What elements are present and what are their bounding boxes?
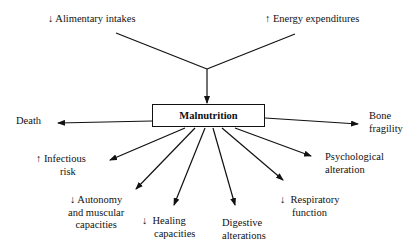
cause-energy-expenditures: ↑ Energy expenditures: [265, 13, 359, 26]
consequence-bone-fragility: Bone fragility: [369, 110, 403, 135]
consequence-digestive-alterations: Digestive alterations: [222, 217, 266, 242]
up-arrow-icon: ↑: [265, 13, 270, 24]
consequence-autonomy-muscular: ↓ Autonomy and muscular capacities: [68, 194, 124, 232]
consequence-psychological-alteration: Psychological alteration: [325, 151, 384, 176]
down-arrow-icon: ↓: [48, 13, 53, 24]
down-arrow-icon: ↓: [70, 194, 75, 205]
consequence-respiratory-function: ↓ Respiratory function: [280, 194, 340, 219]
cause-alimentary-intakes: ↓ Alimentary intakes: [48, 13, 135, 26]
down-arrow-icon: ↓: [142, 215, 147, 226]
down-arrow-icon: ↓: [280, 194, 285, 205]
consequence-healing-capacities: ↓ Healing capacities: [142, 215, 195, 240]
consequence-death: Death: [16, 115, 41, 128]
consequence-infectious-risk: ↑ Infectious risk: [36, 153, 86, 178]
malnutrition-box: Malnutrition: [152, 104, 265, 127]
up-arrow-icon: ↑: [36, 153, 41, 164]
